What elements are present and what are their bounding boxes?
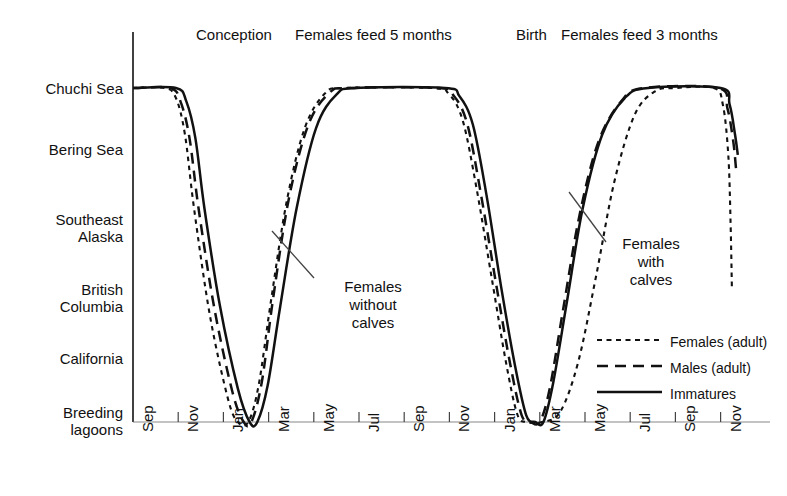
x-axis-label: May (320, 404, 337, 432)
legend-swatches (597, 340, 662, 392)
x-axis-label: Jan (501, 408, 518, 432)
x-axis-label: Sep (681, 405, 698, 432)
series-line-immatures (133, 86, 738, 426)
x-axis-label: Jan (229, 408, 246, 432)
x-axis-label: Nov (184, 405, 201, 432)
axes (133, 32, 770, 422)
x-axis-label: May (591, 404, 608, 432)
data-curves (133, 86, 738, 427)
migration-chart: Chuchi Sea Bering Sea Southeast Alaska B… (0, 0, 787, 496)
x-axis-label: Sep (410, 405, 427, 432)
x-axis-label: Nov (727, 405, 744, 432)
series-line-females-adult (133, 87, 732, 426)
series-line-males-adult (133, 86, 736, 427)
x-axis-label: Nov (455, 405, 472, 432)
plot-area (0, 0, 787, 496)
x-axis-label: Mar (546, 406, 563, 432)
x-axis-label: Mar (275, 406, 292, 432)
leader-lines (272, 192, 606, 278)
x-axis-label: Sep (139, 405, 156, 432)
x-axis-label: Jul (365, 413, 382, 432)
x-axis-label: Jul (636, 413, 653, 432)
